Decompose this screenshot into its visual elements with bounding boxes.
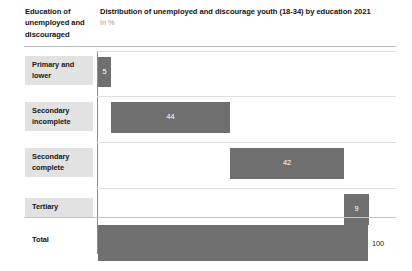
chart-title-block: Distribution of unemployed and discourag… [100,6,400,28]
table-row[interactable]: Primary and lower 5 [0,51,412,96]
row-label-primary-and-lower: Primary and lower [25,56,93,85]
bar-value-primary-and-lower: 5 [98,67,111,76]
row-label-tertiary: Tertiary [25,198,93,217]
table-row-total[interactable]: Total 100 [0,218,412,268]
row-axis-header: Education of unemployed and discouraged [25,6,97,40]
table-row[interactable]: Secondary incomplete 44 [0,96,412,142]
bar-value-secondary-incomplete: 44 [111,112,230,121]
table-row[interactable]: Secondary complete 42 [0,142,412,188]
waterfall-chart: Primary and lower 5 Secondary incomplete… [0,47,412,271]
bar-value-tertiary: 9 [344,204,369,213]
row-label-secondary-incomplete: Secondary incomplete [25,102,93,131]
row-label-total: Total [25,231,93,250]
bar-value-secondary-complete: 42 [230,158,344,167]
page-title: Distribution of unemployed and discourag… [100,6,400,17]
bar-value-total: 100 [372,239,402,248]
row-label-secondary-complete: Secondary complete [25,148,93,177]
chart-header: Education of unemployed and discouraged … [0,0,412,47]
chart-subtitle: In % [100,18,400,28]
bar-total[interactable] [98,225,368,261]
